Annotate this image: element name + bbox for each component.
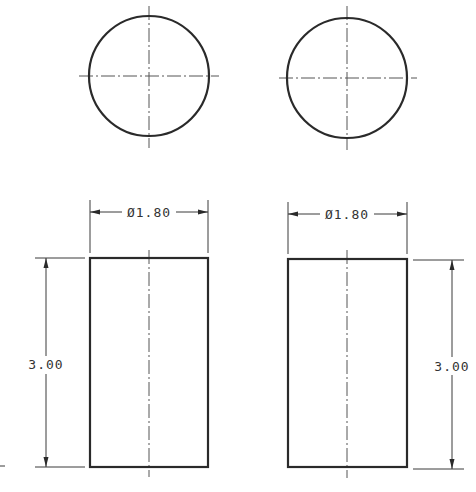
dimension-diameter-left: Ø1.80 [90, 200, 208, 253]
top-view-right [279, 6, 417, 150]
front-view-left [90, 250, 208, 477]
arrowhead-bottom-icon [450, 459, 455, 469]
dimension-height-left: 3.00 [0, 258, 85, 467]
dimension-height-right: 3.00 [413, 260, 470, 469]
front-view-right [288, 250, 407, 478]
diameter-label: Ø1.80 [325, 207, 369, 222]
dimension-diameter-right: Ø1.80 [288, 202, 407, 254]
arrowhead-left-icon [90, 210, 100, 215]
arrowhead-right-icon [397, 212, 407, 217]
arrowhead-top-icon [450, 260, 455, 270]
drawing-canvas: Ø1.80 Ø1.80 3.00 [0, 0, 476, 492]
diameter-label: Ø1.80 [127, 205, 171, 220]
top-view-left [79, 6, 219, 148]
drawing-svg: Ø1.80 Ø1.80 3.00 [0, 0, 476, 492]
arrowhead-bottom-icon [44, 457, 49, 467]
height-label: 3.00 [28, 357, 63, 372]
arrowhead-right-icon [198, 210, 208, 215]
height-label: 3.00 [434, 359, 469, 374]
arrowhead-top-icon [44, 258, 49, 268]
arrowhead-left-icon [288, 212, 298, 217]
